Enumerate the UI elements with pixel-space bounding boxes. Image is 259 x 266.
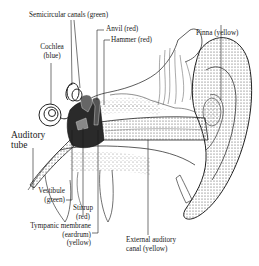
label-external-auditory-canal: External auditory canal (yellow) [126,236,176,253]
label-auditory-tube: Auditory tube [11,130,45,150]
label-external-line2: canal (yellow) [126,245,176,254]
label-stirrup-line1: Stirrup [70,204,96,213]
label-tympanic-membrane: Tympanic membrane (eardrum) (yellow) [14,222,91,248]
label-cochlea-line1: Cochlea [37,43,67,52]
label-tympanic-line2: (eardrum) [14,231,91,240]
label-cochlea: Cochlea (blue) [37,43,67,60]
label-auditory-line1: Auditory [11,130,45,140]
label-semicircular-canals: Semicircular canals (green) [29,11,108,20]
label-external-line1: External auditory [126,236,176,245]
label-vestibule-line1: Vestibule [27,187,65,196]
label-vestibule: Vestibule (green) [27,187,65,204]
label-stirrup: Stirrup (red) [70,204,96,221]
label-cochlea-line2: (blue) [37,52,67,61]
label-tympanic-line3: (yellow) [14,239,91,248]
label-anvil: Anvil (red) [106,25,138,34]
label-hammer: Hammer (red) [111,36,152,45]
label-auditory-line2: tube [11,140,45,150]
cochlea-shape [39,104,70,126]
label-stirrup-line2: (red) [70,213,96,222]
label-vestibule-line2: (green) [27,196,65,205]
label-pinna: Pinna (yellow) [196,29,239,38]
label-tympanic-line1: Tympanic membrane [14,222,91,231]
